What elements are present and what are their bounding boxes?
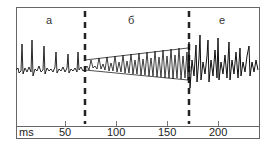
- axis-tick-150: 150: [158, 126, 176, 138]
- segment-label-a: а: [46, 14, 52, 26]
- axis-tick-200: 200: [209, 126, 227, 138]
- trace-segment-e: [188, 35, 258, 88]
- axis-tick-50: 50: [59, 126, 71, 138]
- segment-label-b: б: [128, 14, 134, 26]
- axis-tick-100: 100: [107, 126, 125, 138]
- axis-unit-label: ms: [19, 126, 34, 138]
- trace-segment-a: [16, 40, 85, 76]
- signal-trace-figure: [0, 0, 274, 148]
- segment-label-e: е: [219, 14, 225, 26]
- axis-ticks: [66, 121, 219, 126]
